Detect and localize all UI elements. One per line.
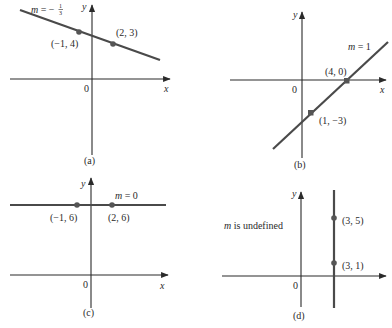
point-label: (4, 0) <box>325 66 347 78</box>
point-label: (2, 3) <box>116 27 138 39</box>
line-positive-slope <box>273 42 388 149</box>
caption-c: (c) <box>83 307 94 319</box>
origin-label: 0 <box>292 84 297 95</box>
slope-label-a: m = − <box>31 4 55 15</box>
panel-d: m is undefined (3, 5) (3, 1) 0 y (d) <box>222 188 386 322</box>
caption-d: (d) <box>293 310 305 322</box>
slope-label-d: m is undefined <box>224 220 283 231</box>
point-label: (3, 5) <box>342 215 364 227</box>
y-axis-label: y <box>292 9 298 20</box>
caption-b: (b) <box>294 159 306 171</box>
figure-canvas: m = − 1 3 (−1, 4) (2, 3) 0 x y (a) m = 1… <box>0 0 392 328</box>
point-3-1 <box>331 260 337 266</box>
line-negative-slope <box>20 10 160 60</box>
point-2-3 <box>110 41 116 47</box>
origin-label: 0 <box>293 280 298 291</box>
point-2-6 <box>109 202 115 208</box>
slope-fraction-den-a: 3 <box>59 10 62 16</box>
point-1-neg3 <box>308 110 314 116</box>
point-label: (−1, 4) <box>51 38 78 50</box>
point-3-5 <box>331 215 337 221</box>
slope-label-b: m = 1 <box>348 41 371 52</box>
x-axis-label: x <box>379 84 385 95</box>
x-axis-label: x <box>163 83 169 94</box>
y-axis-label: y <box>80 178 86 189</box>
slope-label-c: m = 0 <box>115 190 138 201</box>
y-axis-label: y <box>81 1 87 12</box>
x-axis-label: x <box>159 280 165 291</box>
slope-fraction-num-a: 1 <box>59 3 62 9</box>
caption-a: (a) <box>84 155 95 167</box>
origin-label: 0 <box>83 279 88 290</box>
y-axis-label: y <box>291 188 297 199</box>
origin-label: 0 <box>84 83 89 94</box>
point-label: (1, −3) <box>319 115 346 127</box>
panel-a: m = − 1 3 (−1, 4) (2, 3) 0 x y (a) <box>10 1 170 167</box>
point-neg1-4 <box>76 29 82 35</box>
panel-b: m = 1 (4, 0) (1, −3) 0 x y (b) <box>230 9 388 171</box>
panel-c: m = 0 (−1, 6) (2, 6) 0 x y (c) <box>10 178 168 319</box>
point-4-0 <box>344 78 350 84</box>
point-label: (2, 6) <box>108 212 130 224</box>
point-label: (3, 1) <box>342 260 364 272</box>
point-label: (−1, 6) <box>50 212 77 224</box>
slope-figure: m = − 1 3 (−1, 4) (2, 3) 0 x y (a) m = 1… <box>0 0 392 328</box>
point-neg1-6 <box>74 202 80 208</box>
